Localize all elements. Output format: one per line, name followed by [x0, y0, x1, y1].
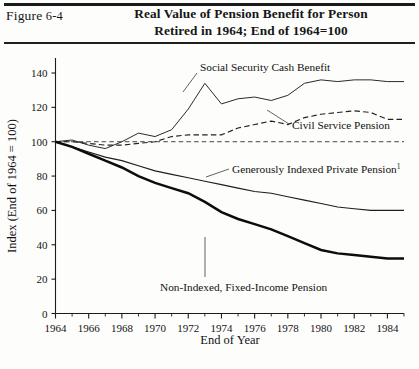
x-tick-label: 1982: [343, 322, 365, 334]
y-tick-label: 40: [37, 239, 49, 251]
x-tick-label: 1968: [111, 322, 134, 334]
x-tick-label: 1966: [78, 322, 101, 334]
line-chart-svg: 020406080100120140 196419661968197019721…: [0, 44, 419, 369]
x-axis-tick-labels: 1964196619681970197219741976197819801982…: [45, 322, 399, 334]
y-tick-label: 0: [42, 308, 48, 320]
figure-label-prefix: Figure: [6, 8, 42, 23]
x-axis-title: End of Year: [200, 333, 260, 347]
y-axis-title: Index (End of 1964 = 100): [5, 119, 19, 253]
x-tick-label: 1972: [177, 322, 199, 334]
series-generously-indexed-private-pension: [56, 142, 405, 211]
y-tick-label: 80: [37, 170, 49, 182]
y-tick-label: 20: [37, 273, 49, 285]
y-axis-tick-labels: 020406080100120140: [31, 67, 48, 320]
y-tick-label: 100: [31, 136, 48, 148]
annotation-civil-service-pension: Civil Service Pension: [292, 119, 390, 131]
x-tick-label: 1974: [210, 322, 233, 334]
series-social-security-cash-benefit: [56, 80, 405, 149]
x-tick-label: 1976: [244, 322, 267, 334]
figure-label-number: 6-4: [46, 9, 63, 23]
annotation-social-security-cash-benefit: Social Security Cash Benefit: [200, 61, 331, 73]
leader-civil-service: [267, 110, 289, 124]
leader-generously-indexed: [206, 169, 229, 177]
figure-container: Figure 6-4 Real Value of Pension Benefit…: [0, 0, 419, 369]
x-tick-label: 1964: [45, 322, 68, 334]
annotation-non-indexed-fixed-income-pension: Non-Indexed, Fixed-Income Pension: [160, 281, 328, 293]
figure-label: Figure 6-4: [6, 8, 63, 24]
x-tick-label: 1984: [376, 322, 399, 334]
x-tick-label: 1970: [144, 322, 167, 334]
plot-area: 020406080100120140 196419661968197019721…: [0, 44, 419, 369]
series-non-indexed-fixed-income-pension: [56, 142, 405, 259]
annotation-generously-indexed-private-pension: Generously Indexed Private Pension1: [232, 162, 401, 175]
figure-title-line-1: Real Value of Pension Benefit for Person: [134, 6, 367, 21]
y-tick-label: 140: [31, 67, 48, 79]
figure-title: Real Value of Pension Benefit for Person…: [92, 5, 410, 39]
x-tick-label: 1978: [277, 322, 300, 334]
leader-social-security: [183, 73, 197, 92]
y-tick-label: 60: [37, 204, 49, 216]
y-tick-label: 120: [31, 101, 48, 113]
x-tick-label: 1980: [310, 322, 333, 334]
figure-title-line-2: Retired in 1964; End of 1964=100: [154, 23, 347, 38]
x-axis-ticks: [56, 314, 405, 319]
y-axis-ticks: [52, 73, 56, 314]
